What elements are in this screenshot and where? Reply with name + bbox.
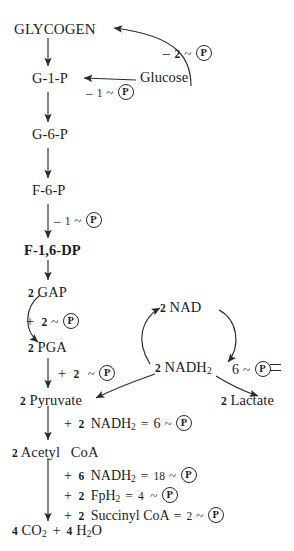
phosphate-icon: P [162, 487, 178, 503]
cost-g1p-from-glucose: – 1 ~ P [86, 84, 134, 100]
node-nad: 2 NAD [160, 300, 201, 315]
node-f16dp: F-1,6-DP [24, 243, 81, 258]
tilde-symbol: ~ [74, 213, 82, 228]
cost-count: 2 [38, 316, 47, 328]
gap-count: 2 [28, 287, 34, 299]
cost-count: 2 [175, 48, 181, 60]
node-nadh2: 2 NADH2 [155, 360, 212, 377]
acetyl-count: 2 [12, 447, 18, 459]
phosphate-icon: P [181, 467, 197, 483]
phosphate-letter: P [64, 316, 78, 327]
eq-count: 2 [75, 490, 84, 502]
h2o-tail: O [92, 522, 103, 538]
tilde-symbol: ~ [83, 366, 96, 381]
node-gap: 2 GAP [28, 285, 67, 300]
cost-sign: + [58, 366, 67, 381]
eq-subscript: 2 [131, 474, 136, 484]
eq-equals: = [139, 468, 150, 483]
co2-count: 4 [12, 525, 18, 537]
cost-glycogen-from-glucose: – 2 ~ P [163, 45, 212, 61]
pyruvate-count: 2 [20, 395, 26, 407]
tilde-symbol: ~ [196, 508, 204, 523]
node-pyruvate: 2 Pyruvate [20, 393, 82, 408]
phosphate-letter: P [256, 364, 270, 375]
node-glucose: Glucose [140, 70, 188, 85]
eq-yield: 4 [138, 490, 144, 502]
tilde-symbol: ~ [106, 85, 114, 100]
node-pga: 2 PGA [28, 340, 67, 355]
node-glycogen: GLYCOGEN [14, 22, 96, 37]
eq-species: Succinyl CoA [88, 508, 169, 523]
pga-label: PGA [38, 339, 67, 355]
lactate-label: Lactate [231, 392, 274, 408]
eq-equals: = [124, 488, 135, 503]
phosphate-icon: P [255, 361, 271, 377]
tilde-symbol: ~ [168, 468, 176, 483]
cost-sign: – [163, 46, 171, 61]
eq-count: 2 [75, 418, 84, 430]
nadh2-label: NADH [165, 359, 207, 375]
tilde-symbol: ~ [243, 362, 251, 377]
eq-equals: = [139, 416, 150, 431]
eq-count: 2 [75, 510, 84, 522]
node-g1p: G-1-P [32, 71, 68, 86]
co2-label: CO [22, 522, 42, 538]
phosphate-letter: P [177, 418, 191, 429]
equivalence-bars [270, 364, 281, 371]
phosphate-icon: P [86, 212, 102, 228]
co2-subscript: 2 [42, 529, 47, 539]
nad-count: 2 [160, 302, 166, 314]
cost-count: 2 [70, 368, 79, 380]
node-lactate: 2 Lactate [221, 393, 274, 408]
node-f6p: F-6-P [32, 183, 66, 198]
eq-yield: 6 [153, 416, 160, 431]
yield-equation-row: + 2 Succinyl CoA = 2 ~ P [64, 507, 224, 523]
tilde-symbol: ~ [147, 488, 158, 503]
plus-sign: + [51, 522, 63, 538]
eq-sign: + [64, 468, 72, 483]
pyruvate-label: Pyruvate [30, 392, 82, 408]
eq-sign: + [64, 508, 72, 523]
cost-nadh2-shuttle: 6 ~ P [232, 361, 281, 377]
cost-count: 1 [65, 215, 71, 227]
cost-sign: – [54, 213, 62, 228]
node-final-products: 4 CO2 + 4 H2O [12, 523, 102, 540]
phosphate-letter: P [87, 215, 101, 226]
cost-count: 1 [97, 87, 103, 99]
tilde-symbol: ~ [164, 416, 172, 431]
phosphate-icon: P [63, 313, 79, 329]
yield-equation-row: + 6 NADH2 = 18 ~ P [64, 467, 197, 485]
cost-gap-to-pga: + 2 ~ P [26, 313, 79, 329]
nadh2-count: 2 [155, 362, 161, 374]
cost-pga-to-pyruvate: + 2 ~ P [58, 365, 116, 381]
eq-yield: 18 [153, 470, 165, 482]
nadh2-subscript: 2 [207, 366, 212, 376]
tilde-symbol: ~ [51, 314, 59, 329]
cost-count: 6 [232, 362, 239, 377]
h2o-label: H [76, 522, 87, 538]
yield-equation-row: + 2 FpH2 = 4 ~ P [64, 487, 178, 505]
phosphate-letter: P [197, 48, 211, 59]
phosphate-icon: P [176, 415, 192, 431]
phosphate-letter: P [209, 510, 223, 521]
yield-equation-row: + 2 NADH2 = 6 ~ P [64, 415, 193, 433]
tilde-symbol: ~ [184, 46, 192, 61]
acetyl-label: Acetyl [21, 444, 60, 460]
phosphate-icon: P [99, 365, 115, 381]
cost-f6p-to-f16dp: – 1 ~ P [54, 212, 102, 228]
nad-label: NAD [170, 299, 202, 315]
eq-subscript: 2 [131, 422, 136, 432]
eq-subscript: 2 [116, 494, 121, 504]
eq-sign: + [64, 488, 72, 503]
eq-yield: 2 [186, 510, 192, 522]
eq-species: FpH [88, 488, 116, 503]
phosphate-letter: P [100, 368, 114, 379]
cost-sign: – [86, 85, 94, 100]
gap-label: GAP [38, 284, 67, 300]
eq-sign: + [64, 416, 72, 431]
phosphate-icon: P [196, 45, 212, 61]
phosphate-letter: P [182, 470, 196, 481]
metabolic-pathway-diagram: GLYCOGEN G-1-P Glucose G-6-P F-6-P F-1,6… [0, 0, 294, 551]
eq-equals: = [172, 508, 183, 523]
eq-species: NADH [88, 416, 131, 431]
